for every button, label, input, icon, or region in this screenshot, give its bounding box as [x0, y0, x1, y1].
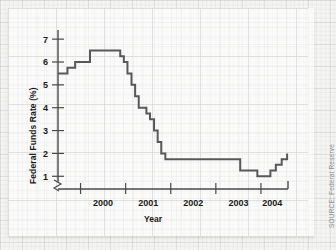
federal-funds-rate-chart: 1234567 20002001200220032004 [8, 8, 308, 236]
y-axis-label-wrap: Federal Funds Rate (%) [14, 36, 30, 186]
y-axis-label: Federal Funds Rate (%) [28, 87, 38, 184]
source-note-wrap: SOURCE: Federal Reserve [318, 120, 332, 230]
x-tick-label: 2003 [228, 198, 248, 208]
y-tick-label: 2 [43, 149, 48, 159]
y-tick-label: 4 [43, 103, 48, 113]
x-axis-label: Year [8, 214, 298, 224]
x-tick-label: 2004 [262, 198, 282, 208]
y-tick-label: 5 [43, 80, 48, 90]
source-note: SOURCE: Federal Reserve [328, 144, 335, 228]
y-tick-label: 1 [43, 172, 48, 182]
x-tick-label: 2000 [93, 198, 113, 208]
y-tick-label: 7 [43, 35, 48, 45]
y-tick-label: 6 [43, 57, 48, 67]
y-tick-label: 3 [43, 126, 48, 136]
chart-figure: 1234567 20002001200220032004 Federal Fun… [8, 8, 308, 236]
x-tick-label: 2001 [138, 198, 158, 208]
x-tick-label: 2002 [183, 198, 203, 208]
